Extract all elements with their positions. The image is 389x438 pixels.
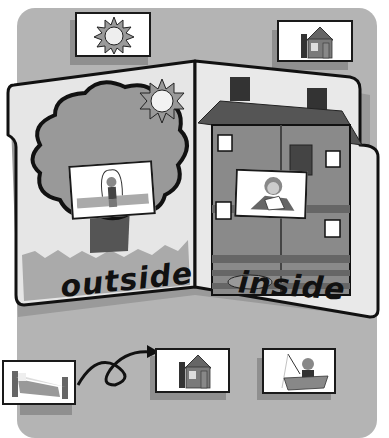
house-icon: [177, 352, 213, 390]
child-writing-icon: [244, 173, 301, 215]
jump-rope-card[interactable]: [68, 160, 156, 220]
fishing-boat-icon: [272, 352, 330, 392]
sun-icon: [93, 16, 135, 54]
looped-arrow-icon: [75, 340, 160, 390]
sun-card[interactable]: [75, 12, 151, 57]
house-card-bottom[interactable]: [155, 348, 230, 393]
writing-child-card[interactable]: [234, 169, 308, 219]
bed-icon: [8, 365, 72, 401]
inside-label: inside: [237, 264, 347, 306]
fishing-card[interactable]: [262, 348, 336, 394]
jump-rope-child-icon: [75, 166, 150, 215]
bed-card[interactable]: [2, 360, 76, 405]
